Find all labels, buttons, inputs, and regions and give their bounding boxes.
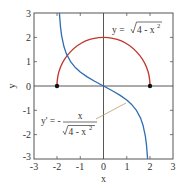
x-tick-label: -2 (53, 161, 61, 172)
y-tick-label: -3 (23, 151, 31, 162)
x-tick-label: 3 (171, 161, 176, 172)
derivative-eq-radicand: 4 - x (69, 127, 87, 137)
semicircle-eq-radicand: 4 - x (137, 25, 155, 35)
y-axis-label: y (6, 84, 17, 89)
derivative-eq-exponent: 2 (89, 124, 92, 131)
leader-line (96, 103, 126, 119)
x-tick-label: -1 (76, 161, 84, 172)
endpoint-marker-left (55, 84, 59, 88)
chart-figure: -3 -2 -1 0 1 2 3 3 2 1 0 -1 -2 -3 x y y … (0, 0, 186, 188)
semicircle-eq-lhs: y = (112, 25, 124, 35)
x-tick-label: 0 (101, 161, 106, 172)
derivative-eq-numerator: x (78, 111, 83, 121)
semicircle-eq-exponent: 2 (157, 22, 160, 29)
y-tick-label: 2 (26, 32, 31, 43)
derivative-annotation: y' = - x 4 - x 2 (41, 103, 126, 137)
x-tick-label: -3 (30, 161, 38, 172)
x-tick-labels: -3 -2 -1 0 1 2 3 (30, 161, 176, 172)
y-tick-label: 0 (26, 81, 31, 92)
x-axis-label: x (101, 173, 106, 184)
x-tick-label: 1 (125, 161, 130, 172)
derivative-eq-lhs: y' = - (41, 116, 61, 126)
y-tick-label: 3 (26, 8, 31, 19)
semicircle-annotation: y = 4 - x 2 (112, 22, 162, 35)
endpoint-marker-right (148, 84, 152, 88)
x-tick-label: 2 (148, 161, 153, 172)
y-tick-label: -1 (23, 105, 31, 116)
y-tick-label: 1 (26, 56, 31, 67)
y-tick-labels: 3 2 1 0 -1 -2 -3 (23, 8, 31, 163)
y-tick-label: -2 (23, 129, 31, 140)
